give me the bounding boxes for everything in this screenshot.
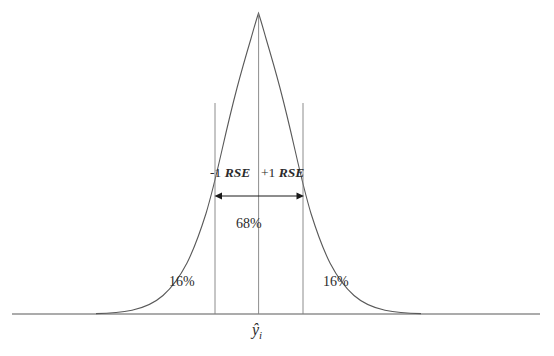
center-percent-label: 68% bbox=[236, 217, 262, 231]
minus-one-rse-term: RSE bbox=[225, 165, 251, 180]
x-axis-variable-subscript: i bbox=[259, 329, 262, 341]
minus-one-rse-label: -1 RSE bbox=[210, 166, 250, 180]
plus-one-rse-term: RSE bbox=[279, 165, 305, 180]
normal-distribution-figure: -1 RSE +1 RSE 68% 16% 16% ŷi bbox=[0, 0, 554, 356]
x-axis-variable-label: ŷi bbox=[252, 322, 262, 341]
plus-one-rse-label: +1 RSE bbox=[261, 166, 304, 180]
rse-span-arrow bbox=[215, 192, 305, 199]
right-tail-percent-label: 16% bbox=[323, 275, 349, 289]
plus-one-rse-prefix: +1 bbox=[261, 165, 279, 180]
rse-span-arrow-head-left bbox=[215, 192, 223, 199]
left-tail-percent-label: 16% bbox=[169, 275, 195, 289]
minus-one-rse-prefix: -1 bbox=[210, 165, 225, 180]
